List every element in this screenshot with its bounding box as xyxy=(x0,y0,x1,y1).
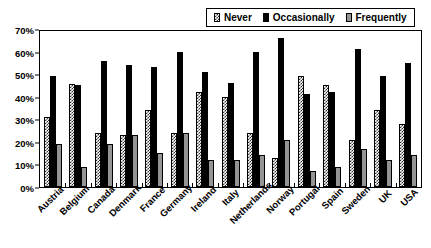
legend-swatch-never-icon xyxy=(214,13,220,22)
bar-group xyxy=(269,31,294,187)
x-axis-label: Sweden xyxy=(340,184,372,216)
bar xyxy=(411,155,417,187)
bar xyxy=(183,133,189,187)
y-axis-tick-label: 40% xyxy=(15,92,34,103)
bar xyxy=(284,140,290,187)
y-axis-tick-label: 30% xyxy=(15,115,34,126)
bar xyxy=(208,160,214,187)
bar xyxy=(107,144,113,187)
x-axis-label-cell: Ireland xyxy=(192,189,218,248)
x-axis-label-cell: Canada xyxy=(90,189,116,248)
bar xyxy=(157,153,163,187)
bar-group xyxy=(167,31,192,187)
bar-group xyxy=(396,31,421,187)
bar-groups xyxy=(40,31,421,187)
bar-group xyxy=(345,31,370,187)
y-axis-tick-label: 0% xyxy=(20,183,34,194)
x-axis-label-cell: France xyxy=(141,189,167,248)
legend-swatch-occasionally-icon xyxy=(263,13,269,22)
bar xyxy=(335,167,341,187)
y-axis-tick-label: 70% xyxy=(15,25,34,36)
x-axis-label-cell: Germany xyxy=(167,189,193,248)
x-axis-label: UK xyxy=(377,188,393,204)
x-axis-label: USA xyxy=(399,187,420,208)
bar-group xyxy=(65,31,90,187)
bar xyxy=(56,144,62,187)
bar xyxy=(132,135,138,187)
bar-group xyxy=(116,31,141,187)
legend-label-occasionally: Occasionally xyxy=(273,13,335,23)
x-axis-label-cell: Sweden xyxy=(345,189,371,248)
x-axis-label: Italy xyxy=(221,187,241,207)
chart-legend: Never Occasionally Frequently xyxy=(206,8,415,27)
bar-group xyxy=(192,31,217,187)
y-axis-tick-label: 50% xyxy=(15,70,34,81)
bar-group xyxy=(294,31,319,187)
y-axis-tick-label: 10% xyxy=(15,160,34,171)
x-axis-label-cell: Denmark xyxy=(116,189,142,248)
x-axis-label-cell: Austria xyxy=(39,189,65,248)
bar xyxy=(234,160,240,187)
legend-item-never: Never xyxy=(214,13,252,23)
x-axis-label: Ireland xyxy=(189,185,218,214)
y-axis: 0%10%20%30%40%50%60%70% xyxy=(0,30,39,188)
bar-group xyxy=(243,31,268,187)
y-axis-tick-label: 20% xyxy=(15,137,34,148)
y-axis-tick-label: 60% xyxy=(15,47,34,58)
x-axis-label-cell: Netherlands xyxy=(243,189,269,248)
x-axis-label-cell: USA xyxy=(396,189,422,248)
plot-area xyxy=(39,30,422,188)
x-axis-label-cell: Portugal xyxy=(294,189,320,248)
bar xyxy=(386,160,392,187)
bar-group xyxy=(142,31,167,187)
legend-swatch-frequently-icon xyxy=(346,13,352,22)
legend-label-frequently: Frequently xyxy=(356,13,407,23)
bar-group xyxy=(40,31,65,187)
bar-group xyxy=(91,31,116,187)
bar-chart: Never Occasionally Frequently 0%10%20%30… xyxy=(0,0,431,248)
x-axis-labels: AustriaBelgiumCanadaDenmarkFranceGermany… xyxy=(39,189,422,248)
bar-group xyxy=(319,31,344,187)
x-axis-label-cell: Spain xyxy=(320,189,346,248)
legend-label-never: Never xyxy=(224,13,252,23)
x-axis-label-cell: UK xyxy=(371,189,397,248)
x-axis-label-cell: Belgium xyxy=(65,189,91,248)
bar xyxy=(361,149,367,187)
legend-item-occasionally: Occasionally xyxy=(263,13,335,23)
legend-item-frequently: Frequently xyxy=(346,13,407,23)
bar-group xyxy=(370,31,395,187)
bar-group xyxy=(218,31,243,187)
x-axis-label-cell: Norway xyxy=(269,189,295,248)
